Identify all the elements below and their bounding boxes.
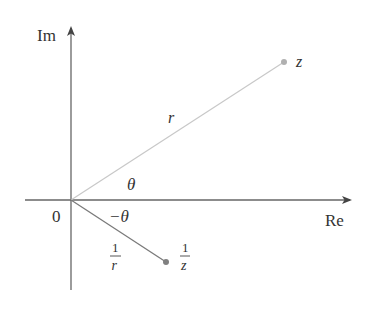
theta-label: θ	[127, 175, 135, 194]
reciprocal-z-label: 1 z	[180, 240, 190, 273]
modulus-r-label: r	[168, 109, 175, 126]
z-segment	[71, 62, 284, 200]
complex-plane-diagram: Im Re 0 z r θ −θ 1 r 1 z	[0, 0, 373, 312]
fraction-denominator: z	[180, 258, 187, 273]
reciprocal-point	[163, 259, 169, 265]
origin-label: 0	[52, 207, 61, 226]
reciprocal-modulus-label: 1 r	[110, 240, 121, 273]
imaginary-axis-label: Im	[37, 26, 56, 45]
z-label: z	[295, 53, 303, 70]
fraction-numerator: 1	[112, 240, 119, 255]
fraction-denominator: r	[112, 258, 118, 273]
neg-theta-label: −θ	[109, 207, 129, 226]
fraction-numerator: 1	[182, 240, 189, 255]
z-point	[281, 59, 287, 65]
real-axis-label: Re	[325, 211, 344, 230]
